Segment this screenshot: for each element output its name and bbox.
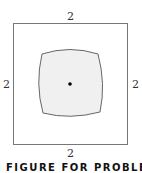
label-bottom: 2 xyxy=(67,148,74,159)
label-top: 2 xyxy=(67,11,74,22)
label-right: 2 xyxy=(132,79,139,90)
figure-caption: FIGURE FOR PROBLEM 16 xyxy=(6,162,142,173)
center-dot xyxy=(68,82,72,86)
label-left: 2 xyxy=(3,79,10,90)
